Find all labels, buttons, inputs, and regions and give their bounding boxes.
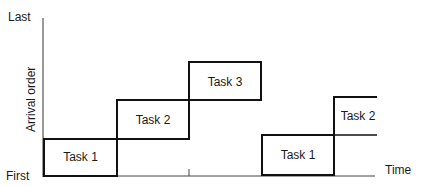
x-axis-label: Time	[385, 163, 411, 177]
task-label: Task 1	[262, 148, 334, 162]
task-label: Task 2	[117, 113, 189, 127]
task-label: Task 1	[44, 150, 117, 164]
y-top-label: Last	[8, 10, 31, 24]
task-label: Task 2	[334, 109, 382, 123]
y-axis-label: Arrival order	[24, 67, 38, 132]
task-label: Task 3	[189, 75, 261, 89]
y-bottom-label: First	[6, 169, 29, 183]
